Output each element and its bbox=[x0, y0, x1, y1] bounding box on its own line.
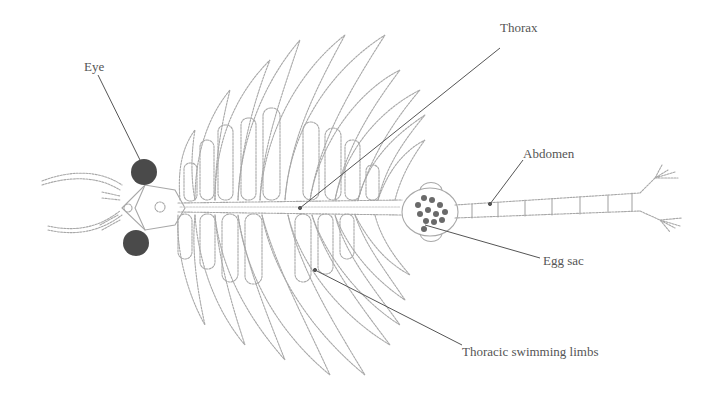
upper-thoracic-limbs bbox=[179, 35, 425, 201]
label-eye: Eye bbox=[84, 60, 104, 73]
label-thorax: Thorax bbox=[500, 21, 538, 34]
label-thoracic-swimming-limbs: Thoracic swimming limbs bbox=[462, 345, 598, 358]
leader-lines bbox=[98, 48, 540, 345]
lower-thoracic-limbs bbox=[178, 214, 410, 375]
label-abdomen: Abdomen bbox=[523, 147, 574, 160]
label-egg-sac: Egg sac bbox=[543, 254, 584, 267]
abdomen bbox=[455, 165, 682, 232]
antennae bbox=[42, 173, 122, 232]
artemia-diagram: Eye Thorax Abdomen Egg sac Thoracic swim… bbox=[0, 0, 715, 395]
head bbox=[122, 185, 185, 230]
thorax-trunk bbox=[178, 200, 402, 215]
compound-eyes bbox=[123, 159, 157, 256]
anatomy-drawing bbox=[0, 0, 715, 395]
